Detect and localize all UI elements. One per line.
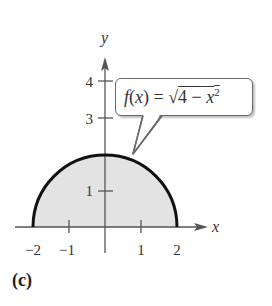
radical-icon: √ bbox=[168, 87, 178, 107]
callout-tail-cover bbox=[0, 0, 272, 306]
function-label: f(x) = √4 − x2 bbox=[124, 86, 220, 108]
figure-label: (c) bbox=[12, 270, 32, 291]
